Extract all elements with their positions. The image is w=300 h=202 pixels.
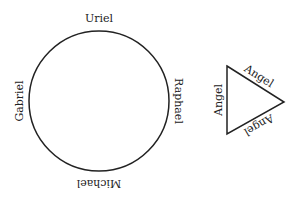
diagram-canvas: Uriel Raphael Michael Gabriel Angel Ange… xyxy=(0,0,300,202)
label-angel-lower: Angel xyxy=(241,111,277,139)
label-michael: Michael xyxy=(76,177,121,190)
label-uriel: Uriel xyxy=(85,12,114,25)
label-gabriel: Gabriel xyxy=(13,80,26,122)
label-raphael: Raphael xyxy=(172,78,185,124)
label-angel-left: Angel xyxy=(212,83,225,117)
archangel-circle xyxy=(29,31,169,171)
